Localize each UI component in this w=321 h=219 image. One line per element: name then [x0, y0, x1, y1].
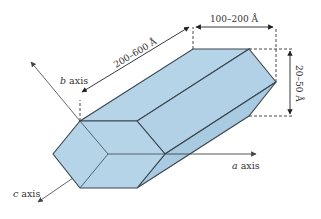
- c-axis-label: c axis: [13, 188, 40, 199]
- thickness-dimension-label: 20–50 Å: [294, 65, 305, 102]
- b-axis-line: [31, 62, 80, 121]
- width-dimension-label: 100–200 Å: [210, 13, 259, 24]
- b-axis-label: b axis: [60, 75, 88, 86]
- crystal-diagram: 200–600 Å 100–200 Å 20–50 Å b axis a axi…: [0, 0, 321, 219]
- length-dimension-label: 200–600 Å: [111, 35, 158, 70]
- a-axis-label: a axis: [232, 160, 260, 171]
